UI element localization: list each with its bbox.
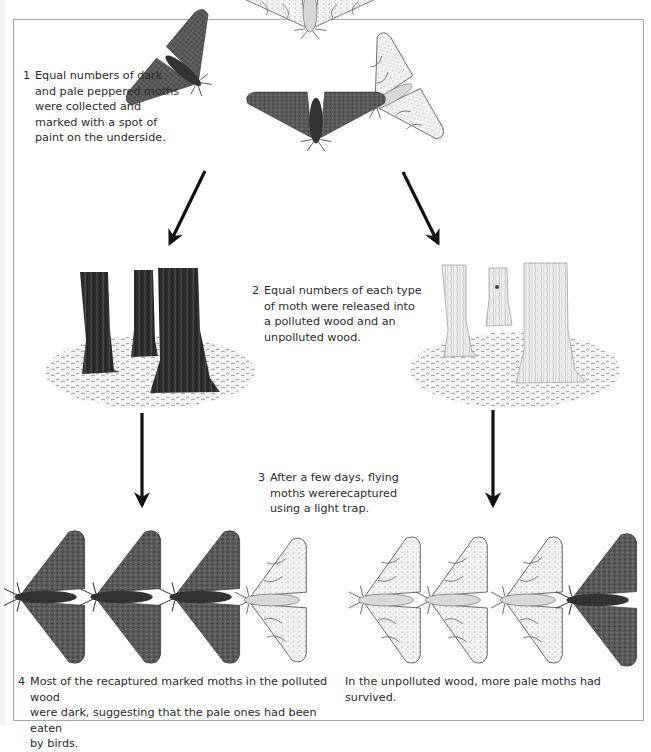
step-2-caption: 2 Equal numbers of each type of moth wer… bbox=[252, 283, 422, 345]
recaptured-polluted-moth-1 bbox=[4, 531, 85, 663]
recaptured-polluted-moth-4 bbox=[235, 538, 306, 662]
step-3-caption: 3 After a few days, flying moths wererec… bbox=[258, 470, 418, 517]
step-3-line: moths wererecaptured bbox=[270, 486, 418, 502]
top-moth-dark-spread bbox=[247, 92, 386, 151]
unpolluted-result-caption: In the unpolluted wood, more pale moths … bbox=[345, 674, 645, 705]
step-1-line: were collected and bbox=[35, 99, 183, 115]
step-2-line: a polluted wood and an bbox=[264, 314, 422, 330]
recaptured-polluted-moth-2 bbox=[80, 531, 161, 663]
step-3-number: 3 bbox=[258, 470, 265, 486]
recaptured-unpolluted-moth-2 bbox=[416, 537, 487, 663]
step-1-line: Equal numbers of dark bbox=[35, 68, 183, 84]
step-1-caption: 1 Equal numbers of dark and pale peppere… bbox=[23, 68, 183, 146]
step-4-line: Most of the recaptured marked moths in t… bbox=[30, 674, 348, 705]
step-4-line: were dark, suggesting that the pale ones… bbox=[30, 705, 348, 736]
recaptured-unpolluted-moth-3 bbox=[491, 537, 562, 663]
step-1-line: marked with a spot of bbox=[35, 115, 183, 131]
step-1-line: paint on the underside. bbox=[35, 130, 183, 146]
step-1-line: and pale peppered moths bbox=[35, 84, 183, 100]
top-moth-pale-spread bbox=[237, 0, 382, 39]
recaptured-unpolluted-moth-1 bbox=[349, 537, 420, 663]
step-2-line: Equal numbers of each type bbox=[264, 283, 422, 299]
step-4-caption: 4 Most of the recaptured marked moths in… bbox=[18, 674, 348, 752]
step-2-line: of moth were released into bbox=[264, 299, 422, 315]
step-2-number: 2 bbox=[252, 283, 259, 299]
recaptured-polluted-moth-3 bbox=[159, 531, 240, 663]
step-3-line: using a light trap. bbox=[270, 501, 418, 517]
step-1-number: 1 bbox=[23, 68, 30, 84]
step-3-line: After a few days, flying bbox=[270, 470, 418, 486]
recaptured-unpolluted-moth-4 bbox=[556, 534, 637, 666]
step-2-line: unpolluted wood. bbox=[264, 330, 422, 346]
step-4-number: 4 bbox=[18, 674, 25, 690]
step-4-line: by birds. bbox=[30, 736, 348, 752]
arrow-to-unpolluted-wood bbox=[403, 172, 438, 243]
unpolluted-wood bbox=[410, 263, 620, 408]
polluted-wood bbox=[45, 268, 255, 408]
arrow-to-polluted-wood bbox=[170, 171, 205, 243]
unpolluted-result-text: In the unpolluted wood, more pale moths … bbox=[345, 675, 601, 704]
